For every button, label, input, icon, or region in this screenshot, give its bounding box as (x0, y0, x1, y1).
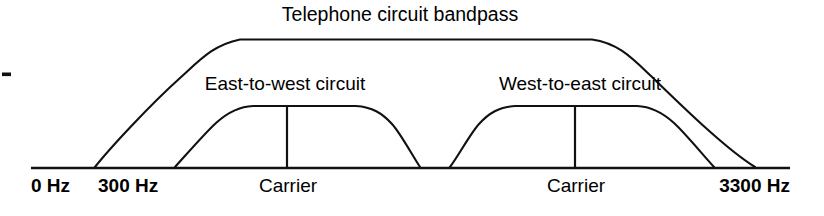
axis-label-carrier-right: Carrier (547, 175, 606, 196)
bandpass-diagram: Telephone circuit bandpass East-to-west … (0, 0, 824, 216)
page-title: Telephone circuit bandpass (282, 3, 519, 25)
east-to-west-label: East-to-west circuit (205, 73, 366, 94)
axis-label-3300hz: 3300 Hz (719, 175, 790, 196)
west-to-east-label: West-to-east circuit (499, 73, 662, 94)
axis-label-0hz: 0 Hz (31, 175, 70, 196)
axis-label-carrier-left: Carrier (259, 175, 318, 196)
east-to-west-curve (175, 106, 420, 167)
telephone-bandpass-curve (95, 40, 755, 168)
west-to-east-curve (450, 106, 714, 167)
diagram-canvas: Telephone circuit bandpass East-to-west … (0, 0, 824, 216)
left-margin-dash-icon (2, 73, 11, 77)
axis-label-300hz: 300 Hz (98, 175, 158, 196)
